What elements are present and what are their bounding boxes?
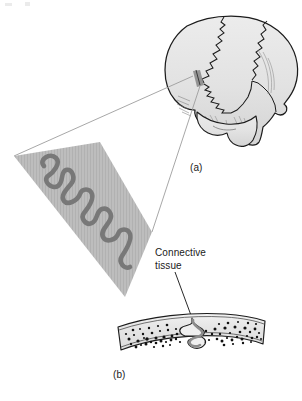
leader-line-upper [14, 76, 193, 156]
leader-line-lower [152, 86, 200, 232]
magnified-suture-wedge [14, 142, 152, 297]
bone-cross-section-illustration [118, 314, 265, 350]
figure-artwork [0, 0, 302, 401]
panel-label-b: (b) [113, 369, 126, 381]
anatomy-figure: (a) (b) Connective tissue [0, 0, 302, 401]
skull-lateral-illustration [165, 16, 298, 146]
connective-tissue-leader-line [175, 272, 192, 318]
connective-tissue-label: Connective tissue [155, 247, 206, 272]
panel-label-a: (a) [190, 162, 203, 174]
